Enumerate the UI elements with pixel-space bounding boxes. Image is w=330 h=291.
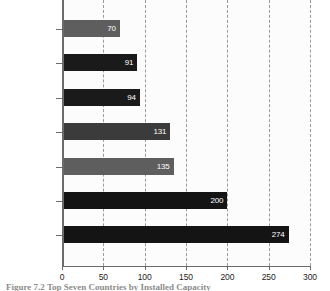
y-axis-line [62,0,64,267]
bar-russia[interactable]: 131 [62,123,170,140]
category-tick-mark [56,201,62,202]
bar-india[interactable]: 94 [62,89,140,106]
x-tick-mark-50 [103,266,104,270]
x-tick-label-0: 0 [60,272,65,282]
category-tick-mark [56,235,62,236]
bar-australia[interactable]: 91 [62,54,137,71]
bar-row: 274 [62,226,310,243]
x-tick-label-50: 50 [99,272,108,282]
plot-area: 709194131135200274 [62,0,310,266]
bar-value-label: 200 [211,192,224,209]
x-tick-mark-300 [310,266,311,270]
x-tick-mark-200 [227,266,228,270]
bar-row: 94 [62,89,310,106]
x-tick-label-300: 300 [303,272,317,282]
bar-value-label: 94 [127,89,136,106]
bar-chart-figure: 709194131135200274 ArgentinaAustraliaInd… [0,0,330,291]
x-tick-label-200: 200 [220,272,234,282]
x-tick-label-250: 250 [262,272,276,282]
bar-row: 200 [62,192,310,209]
x-tick-mark-0 [62,266,63,270]
category-tick-mark [56,63,62,64]
category-tick-mark [56,132,62,133]
category-tick-mark [56,167,62,168]
figure-caption-text: Figure 7.2 Top Seven Countries by Instal… [6,283,324,291]
bar-value-label: 70 [107,20,116,37]
x-tick-mark-150 [186,266,187,270]
x-tick-label-150: 150 [179,272,193,282]
bar-value-label: 91 [125,54,134,71]
bar-value-label: 135 [157,158,170,175]
x-tick-label-100: 100 [138,272,152,282]
bar-south-korea[interactable]: 200 [62,192,227,209]
category-tick-mark [56,29,62,30]
bar-row: 135 [62,158,310,175]
bar-argentina[interactable]: 70 [62,20,120,37]
bar-row: 70 [62,20,310,37]
bar-row: 91 [62,54,310,71]
bar-china[interactable]: 274 [62,226,289,243]
figure-caption-cutoff: Figure 7.2 Top Seven Countries by Instal… [6,283,324,291]
category-tick-mark [56,98,62,99]
x-tick-mark-250 [269,266,270,270]
bar-value-label: 274 [272,226,285,243]
x-tick-mark-100 [145,266,146,270]
gridline-300 [310,0,311,266]
bar-row: 131 [62,123,310,140]
bar-value-label: 131 [154,123,167,140]
bar-brazil[interactable]: 135 [62,158,174,175]
